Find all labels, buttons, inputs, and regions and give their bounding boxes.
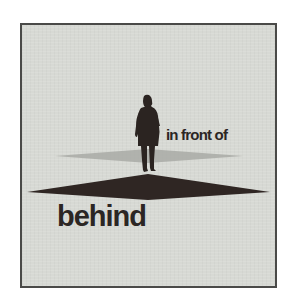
- dark-plane-diamond: [27, 174, 270, 200]
- label-in-front-of: in front of: [166, 126, 227, 143]
- scene-illustration: [0, 0, 287, 305]
- label-behind: behind: [57, 200, 146, 233]
- light-plane-diamond: [55, 149, 243, 163]
